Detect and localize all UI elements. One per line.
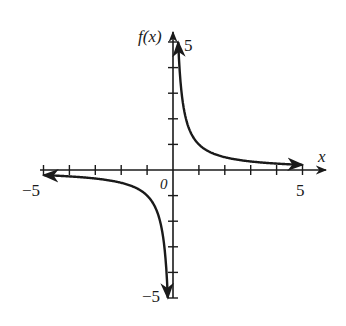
curve-left-branch <box>44 175 168 298</box>
y-max-label: 5 <box>184 36 193 55</box>
curve-right-branch <box>178 42 302 165</box>
x-max-label: 5 <box>296 181 305 200</box>
y-axis-label: f(x) <box>138 27 162 46</box>
x-axis-label: x <box>317 147 326 166</box>
function-graph: f(x) x 5 −5 −5 5 0 <box>0 0 346 326</box>
origin-label: 0 <box>160 176 168 192</box>
y-min-label: −5 <box>142 287 160 306</box>
x-min-label: −5 <box>22 181 40 200</box>
